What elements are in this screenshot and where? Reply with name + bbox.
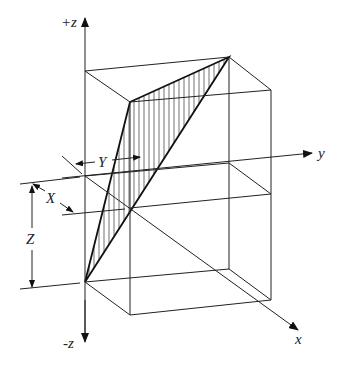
z-neg-label: -z [63,335,74,351]
dimension-y-label: Y [98,154,108,170]
x-axis-label: x [294,331,302,347]
axes [62,18,312,342]
dimension-x-label: X [45,190,56,206]
dimension-z-label: Z [26,231,35,247]
y-axis-label: y [316,145,325,161]
box [85,57,271,315]
z-pos-label: +z [61,14,77,30]
diagram-canvas: +z -z y x Y X Z [0,0,338,369]
x-axis [85,176,298,330]
